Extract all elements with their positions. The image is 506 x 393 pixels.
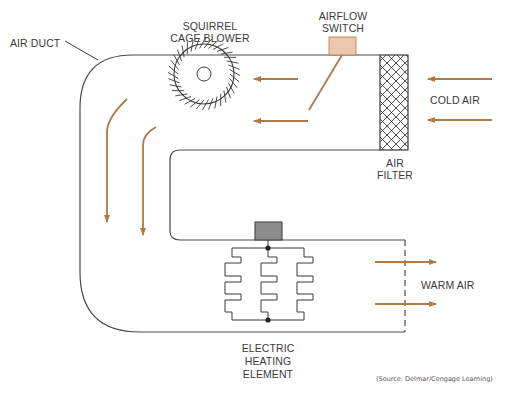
- blower-label-line2: CAGE BLOWER: [160, 32, 260, 44]
- down-arrow: [107, 99, 127, 222]
- electric-heating-element: [225, 222, 313, 323]
- warm-air-label: WARM AIR: [421, 279, 475, 291]
- air-duct-label: AIR DUCT: [10, 37, 60, 49]
- heating-element-label: ELECTRIC HEATING ELEMENT: [228, 342, 308, 381]
- blower-blade: [213, 44, 224, 50]
- source-credit: (Source: Delmar/Cengage Learning): [376, 375, 493, 383]
- switch-label-line2: SWITCH: [300, 22, 386, 34]
- down-arrow: [143, 127, 156, 235]
- airflow-switch: [309, 37, 356, 110]
- heater-label-line2: HEATING: [228, 355, 308, 368]
- blower-blade: [174, 55, 180, 66]
- diagram-canvas: [0, 0, 506, 393]
- airflow-arrows: [107, 79, 492, 304]
- blower-label: SQUIRREL CAGE BLOWER: [160, 20, 260, 44]
- blower-blade: [228, 83, 234, 94]
- air-filter-label: AIR FILTER: [372, 157, 418, 181]
- filter-label-line2: FILTER: [372, 169, 418, 181]
- filter-label-line1: AIR: [372, 157, 418, 169]
- heater-label-line1: ELECTRIC: [228, 342, 308, 355]
- squirrel-cage-blower: [168, 38, 240, 110]
- switch-label-line1: AIRFLOW: [300, 10, 386, 22]
- blower-blade: [185, 98, 196, 104]
- heater-label-line3: ELEMENT: [228, 368, 308, 381]
- blower-label-line1: SQUIRREL: [160, 20, 260, 32]
- airflow-switch-label: AIRFLOW SWITCH: [300, 10, 386, 34]
- air-filter: [380, 55, 408, 150]
- cold-air-label: COLD AIR: [430, 94, 480, 106]
